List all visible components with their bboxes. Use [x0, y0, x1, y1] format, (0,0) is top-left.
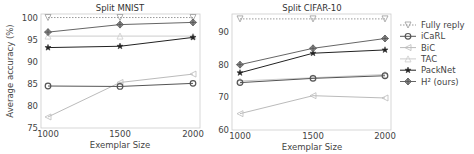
series-icarl — [45, 81, 196, 90]
svg-text:Fully reply: Fully reply — [421, 20, 465, 30]
series-tac — [45, 33, 196, 39]
svg-text:Split CIFAR-10: Split CIFAR-10 — [282, 3, 341, 13]
series-bic — [45, 71, 196, 120]
chart-panel-1: Split MNIST1000150020007580859095100Exem… — [5, 3, 204, 150]
series-hours — [45, 19, 197, 36]
svg-text:Exemplar Size: Exemplar Size — [90, 140, 150, 150]
chart-panel-2: Split CIFAR-1010001500200060708090Exempl… — [218, 3, 396, 152]
svg-text:2000: 2000 — [374, 131, 396, 141]
svg-text:Average accuracy (%): Average accuracy (%) — [5, 24, 15, 117]
accuracy-charts: Split MNIST1000150020007580859095100Exem… — [0, 0, 474, 154]
series-tac — [237, 71, 388, 84]
svg-text:90: 90 — [27, 57, 38, 67]
svg-text:H² (ours): H² (ours) — [421, 77, 459, 87]
series-hours — [237, 35, 389, 68]
svg-text:70: 70 — [218, 92, 229, 102]
legend-item-1: iCaRL — [400, 31, 445, 41]
svg-text:1000: 1000 — [37, 129, 59, 139]
series-bic — [237, 93, 388, 117]
svg-text:TAC: TAC — [420, 54, 437, 64]
legend-item-2: BiC — [400, 43, 435, 53]
svg-text:2000: 2000 — [182, 129, 204, 139]
svg-text:1000: 1000 — [229, 131, 251, 141]
series-fullyreply — [45, 15, 196, 21]
series-fullyreply — [237, 16, 388, 22]
svg-text:Split MNIST: Split MNIST — [96, 3, 145, 13]
svg-text:80: 80 — [27, 101, 38, 111]
svg-text:iCaRL: iCaRL — [421, 31, 445, 41]
svg-text:80: 80 — [218, 60, 229, 70]
legend-item-3: TAC — [400, 54, 437, 64]
svg-text:PackNet: PackNet — [421, 65, 456, 75]
svg-text:1500: 1500 — [109, 129, 131, 139]
svg-text:85: 85 — [27, 79, 38, 89]
legend: Fully replyiCaRLBiCTACPackNetH² (ours) — [400, 20, 465, 87]
legend-item-5: H² (ours) — [400, 77, 459, 87]
legend-item-0: Fully reply — [400, 20, 465, 30]
svg-text:75: 75 — [27, 123, 38, 133]
svg-text:90: 90 — [218, 27, 229, 37]
svg-text:100: 100 — [22, 13, 38, 23]
svg-text:Exemplar Size: Exemplar Size — [282, 142, 342, 152]
svg-text:1500: 1500 — [302, 131, 324, 141]
svg-text:95: 95 — [27, 35, 38, 45]
svg-text:BiC: BiC — [421, 43, 435, 53]
legend-item-4: PackNet — [400, 65, 456, 75]
svg-text:60: 60 — [218, 125, 229, 135]
series-packnet — [45, 34, 196, 50]
